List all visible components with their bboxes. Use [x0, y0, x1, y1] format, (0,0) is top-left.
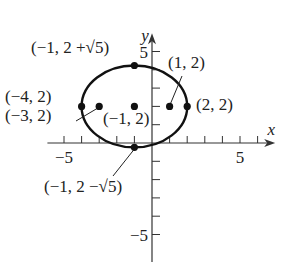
point-focus-right	[166, 103, 173, 110]
point-covertex-bottom	[131, 144, 138, 151]
point-vertex-left	[78, 103, 85, 110]
point-focus-left	[96, 103, 103, 110]
label-focus-right: (1, 2)	[168, 53, 205, 72]
label-vertex-left: (−4, 2)	[5, 87, 51, 106]
x-axis-label: x	[266, 120, 275, 139]
label-center: (−1, 2)	[103, 109, 149, 128]
ellipse-graph: −555−5xy(−4, 2)(−3, 2)(−1, 2)(1, 2)(2, 2…	[0, 0, 287, 267]
label-vertex-right: (2, 2)	[196, 95, 233, 114]
label-covertex-bottom: (−1, 2 −√5)	[44, 177, 122, 196]
leader-focus-left	[76, 108, 97, 121]
y-tick-label: −5	[130, 226, 148, 245]
labels: −555−5xy(−4, 2)(−3, 2)(−1, 2)(1, 2)(2, 2…	[5, 26, 275, 244]
x-tick-label: −5	[55, 148, 73, 167]
point-vertex-right	[184, 103, 191, 110]
y-axis-label: y	[139, 26, 149, 45]
leader-covertex-bottom	[113, 150, 133, 176]
point-covertex-top	[131, 62, 138, 69]
y-tick-label: 5	[140, 43, 149, 62]
label-covertex-top: (−1, 2 +√5)	[31, 38, 109, 57]
x-tick-label: 5	[236, 148, 245, 167]
label-focus-left: (−3, 2)	[5, 106, 51, 125]
